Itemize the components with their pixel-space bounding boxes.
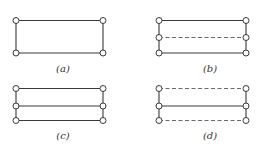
panel-d-label: (d) (203, 130, 217, 141)
panel-a-label: (a) (56, 63, 70, 74)
panel-b (156, 18, 249, 57)
node-circle-icon (156, 18, 162, 24)
node-circle-icon (243, 118, 249, 124)
panel-d (156, 86, 249, 124)
node-circle-icon (156, 35, 162, 41)
panel-a (13, 18, 106, 57)
node-circle-icon (156, 103, 162, 109)
panel-c-label: (c) (56, 130, 70, 141)
node-circle-icon (13, 103, 19, 109)
node-circle-icon (243, 50, 249, 56)
node-circle-icon (13, 118, 19, 124)
frame-diagram: (a) (b) (c) (d) (0, 0, 259, 148)
node-circle-icon (100, 18, 106, 24)
node-circle-icon (156, 50, 162, 56)
node-circle-icon (243, 18, 249, 24)
node-circle-icon (13, 50, 19, 56)
node-circle-icon (100, 50, 106, 56)
node-circle-icon (13, 86, 19, 92)
node-circle-icon (100, 103, 106, 109)
node-circle-icon (100, 118, 106, 124)
node-circle-icon (156, 86, 162, 92)
node-circle-icon (100, 86, 106, 92)
node-circle-icon (156, 118, 162, 124)
node-circle-icon (243, 103, 249, 109)
node-circle-icon (13, 18, 19, 24)
node-circle-icon (243, 35, 249, 41)
panel-b-label: (b) (203, 63, 217, 74)
panel-c (13, 86, 106, 124)
node-circle-icon (243, 86, 249, 92)
